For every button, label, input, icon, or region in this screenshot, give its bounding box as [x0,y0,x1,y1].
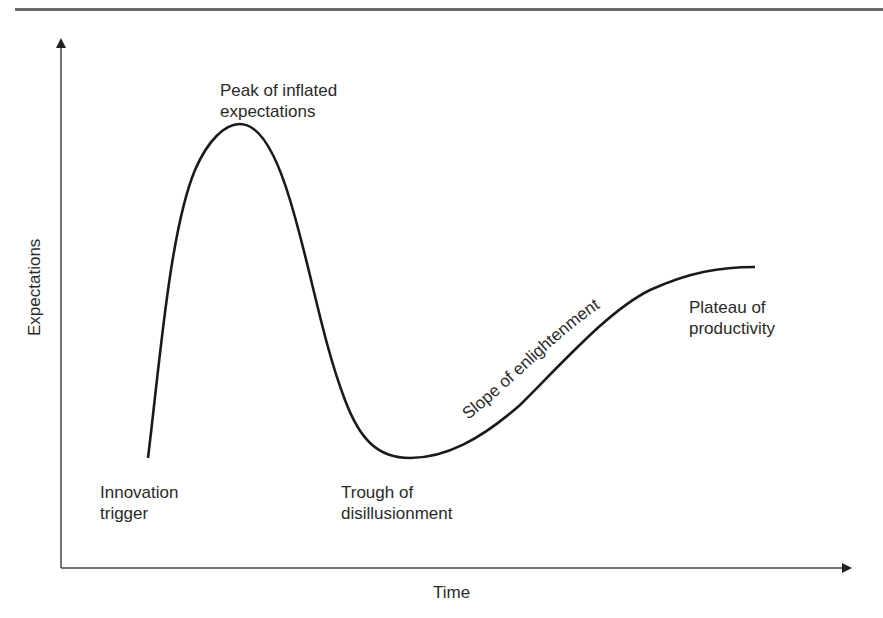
hype-curve [148,124,755,458]
plateau-label: Plateau of productivity [689,297,775,339]
trough-label: Trough of disillusionment [341,482,453,524]
y-axis-label: Expectations [25,239,45,336]
peak-label: Peak of inflated expectations [220,80,337,122]
x-axis-label: Time [433,583,470,603]
trigger-label: Innovation trigger [100,482,178,524]
slope-label: Slope of enlightenment [459,295,604,423]
